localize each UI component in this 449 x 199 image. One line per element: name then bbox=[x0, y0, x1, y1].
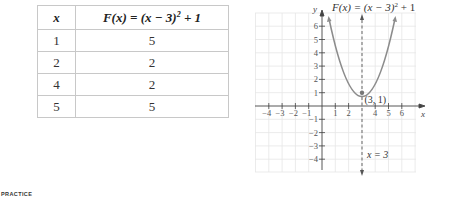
table-header-row: x F(x) = (x − 3)2 + 1 bbox=[38, 6, 229, 30]
header-fx: F(x) = (x − 3)2 + 1 bbox=[76, 6, 229, 30]
cell-fx: 2 bbox=[76, 74, 229, 96]
cell-x: 4 bbox=[38, 74, 76, 96]
cell-fx: 2 bbox=[76, 52, 229, 74]
x-axis-arrow-icon bbox=[419, 104, 425, 108]
parabola-graph: −4 −3 −2 −1 1 2 4 5 6 6 5 4 3 2 1 −1 −2 … bbox=[250, 0, 449, 199]
x-axis-label: x bbox=[420, 109, 425, 119]
x-tick-labels: −4 −3 −2 −1 1 2 4 5 6 bbox=[262, 108, 404, 118]
graph-svg: −4 −3 −2 −1 1 2 4 5 6 6 5 4 3 2 1 −1 −2 … bbox=[250, 0, 449, 199]
symmetry-arrow-down-icon bbox=[360, 170, 364, 176]
values-table: x F(x) = (x − 3)2 + 1 1 5 2 2 4 2 5 5 bbox=[37, 5, 229, 118]
header-x-label: x bbox=[53, 10, 60, 25]
table-row: 4 2 bbox=[38, 74, 229, 96]
cell-x: 2 bbox=[38, 52, 76, 74]
svg-text:−4: −4 bbox=[262, 108, 272, 118]
header-fx-prefix: F(x) = (x − 3) bbox=[103, 10, 177, 25]
svg-text:2: 2 bbox=[314, 74, 318, 84]
svg-text:4: 4 bbox=[373, 108, 378, 118]
svg-text:5: 5 bbox=[314, 35, 318, 45]
grid bbox=[255, 13, 416, 172]
vertex-label: (3, 1) bbox=[365, 94, 387, 106]
curve-arrow-right-icon bbox=[393, 16, 398, 22]
values-table-container: x F(x) = (x − 3)2 + 1 1 5 2 2 4 2 5 5 bbox=[37, 5, 229, 118]
table-row: 1 5 bbox=[38, 30, 229, 52]
svg-text:−1: −1 bbox=[309, 114, 318, 124]
cell-x: 5 bbox=[38, 96, 76, 118]
header-fx-suffix: + 1 bbox=[181, 10, 201, 25]
svg-text:−3: −3 bbox=[309, 141, 318, 151]
curve-arrow-left-icon bbox=[327, 16, 332, 22]
axis-of-symmetry-label: x = 3 bbox=[366, 149, 388, 160]
cell-x: 1 bbox=[38, 30, 76, 52]
svg-text:−2: −2 bbox=[289, 108, 298, 118]
svg-text:6: 6 bbox=[400, 108, 404, 118]
svg-text:−4: −4 bbox=[309, 154, 319, 164]
symmetry-arrow-up-icon bbox=[360, 14, 364, 20]
svg-text:2: 2 bbox=[346, 108, 350, 118]
svg-text:3: 3 bbox=[314, 61, 318, 71]
graph-title: F(x) = (x − 3)2 + 1 bbox=[331, 1, 415, 14]
svg-text:6: 6 bbox=[314, 21, 318, 31]
table-row: 5 5 bbox=[38, 96, 229, 118]
y-axis-label: y bbox=[312, 4, 317, 14]
svg-text:−2: −2 bbox=[309, 128, 318, 138]
y-axis-arrow-icon bbox=[320, 10, 324, 16]
svg-text:5: 5 bbox=[386, 108, 390, 118]
table-row: 2 2 bbox=[38, 52, 229, 74]
cell-fx: 5 bbox=[76, 30, 229, 52]
svg-text:1: 1 bbox=[333, 108, 337, 118]
cell-fx: 5 bbox=[76, 96, 229, 118]
practice-label: PRACTICE bbox=[1, 191, 32, 197]
svg-text:1: 1 bbox=[314, 88, 318, 98]
header-x: x bbox=[38, 6, 76, 30]
svg-text:−3: −3 bbox=[276, 108, 285, 118]
